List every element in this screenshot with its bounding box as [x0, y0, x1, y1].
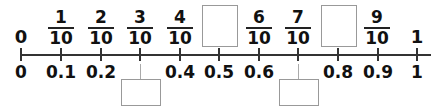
- answer-box-top-0.8[interactable]: [321, 5, 357, 47]
- fraction-2-10: 2 10: [86, 8, 116, 48]
- decimal-label-0.9: 0.9: [360, 62, 396, 82]
- decimal-label-1: 1: [399, 62, 435, 82]
- numerator: 3: [125, 8, 155, 27]
- tick-0.3: [139, 48, 141, 61]
- whole-label-1: 1: [407, 26, 427, 47]
- denominator: 10: [46, 29, 76, 48]
- numerator: 4: [165, 8, 195, 27]
- tick-0.2: [100, 48, 102, 61]
- tick-1: [416, 48, 418, 61]
- tick-0.1: [60, 48, 62, 61]
- numerator: 9: [362, 8, 392, 27]
- decimal-label-0: 0: [3, 62, 39, 82]
- answer-box-bottom-0.7[interactable]: [279, 79, 319, 106]
- tick-0.9: [377, 48, 379, 61]
- tick-0: [20, 48, 22, 61]
- numerator: 7: [283, 8, 313, 27]
- numerator: 1: [46, 8, 76, 27]
- decimal-label-0.6: 0.6: [241, 62, 277, 82]
- fraction-7-10: 7 10: [283, 8, 313, 48]
- denominator: 10: [362, 29, 392, 48]
- tick-0.7: [297, 48, 299, 61]
- decimal-label-0.2: 0.2: [83, 62, 119, 82]
- fraction-4-10: 4 10: [165, 8, 195, 48]
- fraction-6-10: 6 10: [244, 8, 274, 48]
- number-line-axis: [21, 54, 431, 56]
- decimal-label-0.8: 0.8: [320, 62, 356, 82]
- whole-label-0: 0: [11, 26, 31, 47]
- decimal-label-0.4: 0.4: [162, 62, 198, 82]
- denominator: 10: [283, 29, 313, 48]
- tick-0.5: [218, 48, 220, 61]
- numerator: 2: [86, 8, 116, 27]
- answer-box-bottom-0.3[interactable]: [121, 79, 161, 106]
- answer-box-top-0.5[interactable]: [202, 5, 238, 47]
- tick-0.6: [258, 48, 260, 61]
- tick-0.8: [337, 48, 339, 61]
- denominator: 10: [244, 29, 274, 48]
- denominator: 10: [86, 29, 116, 48]
- pointer-line-0.7: [298, 64, 299, 79]
- numerator: 6: [244, 8, 274, 27]
- fraction-9-10: 9 10: [362, 8, 392, 48]
- decimal-label-0.1: 0.1: [43, 62, 79, 82]
- fraction-3-10: 3 10: [125, 8, 155, 48]
- pointer-line-0.3: [140, 64, 141, 79]
- denominator: 10: [125, 29, 155, 48]
- denominator: 10: [165, 29, 195, 48]
- decimal-label-0.5: 0.5: [201, 62, 237, 82]
- tick-0.4: [179, 48, 181, 61]
- fraction-1-10: 1 10: [46, 8, 76, 48]
